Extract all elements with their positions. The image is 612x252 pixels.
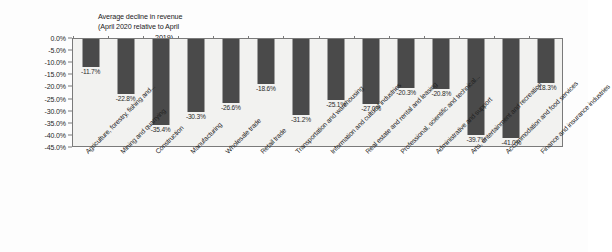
x-axis-tick-mark [143,36,144,39]
bar-value-label: -18.6% [256,85,276,92]
bar[interactable] [363,39,380,104]
x-axis-tick-mark [108,36,109,39]
chart-title-line-1: Average decline in revenue [98,12,230,22]
y-axis-tick-label: -35.0% [44,119,66,126]
bar[interactable] [117,39,134,94]
bar-value-label: -26.6% [221,104,241,111]
x-axis-tick-mark [389,36,390,39]
bar[interactable] [187,39,204,112]
x-axis-tick-mark [494,36,495,39]
bar[interactable] [328,39,345,100]
y-axis-tick-label: -45.0% [44,144,66,151]
bar-value-label: -35.4% [151,126,171,133]
y-axis: 0.0%-5.0%-10.0%-15.0%-20.0%-25.0%-30.0%-… [0,38,72,147]
bar-value-label: -20.3% [396,89,416,96]
bar[interactable] [538,39,555,83]
x-axis-tick-mark [529,36,530,39]
y-axis-tick-label: -15.0% [44,71,66,78]
x-axis: Agriculture, forestry, fishing and...Min… [72,148,563,252]
bar[interactable] [398,39,415,88]
y-axis-tick-label: -20.0% [44,83,66,90]
bar-value-label: -31.2% [291,116,311,123]
x-axis-tick-mark [319,36,320,39]
x-axis-tick-mark [354,36,355,39]
x-axis-tick-mark [459,36,460,39]
bar[interactable] [292,39,309,115]
chart-title-line-2: (April 2020 relative to April [98,22,230,32]
bar[interactable] [82,39,99,67]
bar[interactable] [222,39,239,103]
y-axis-tick-label: 0.0% [50,35,66,42]
x-axis-tick-mark [213,36,214,39]
bar[interactable] [257,39,274,84]
x-axis-tick-mark [73,36,74,39]
y-axis-tick-label: -10.0% [44,59,66,66]
bar-value-label: -30.3% [186,113,206,120]
x-axis-tick-mark [248,36,249,39]
y-axis-tick-label: -30.0% [44,107,66,114]
x-axis-tick-mark [178,36,179,39]
x-axis-tick-mark [424,36,425,39]
y-axis-tick-label: -25.0% [44,95,66,102]
bar-value-label: -20.8% [431,90,451,97]
bar-value-label: -11.7% [81,68,100,75]
y-axis-tick-label: -40.0% [44,131,66,138]
x-axis-tick-mark [283,36,284,39]
y-axis-tick-label: -5.0% [48,47,66,54]
